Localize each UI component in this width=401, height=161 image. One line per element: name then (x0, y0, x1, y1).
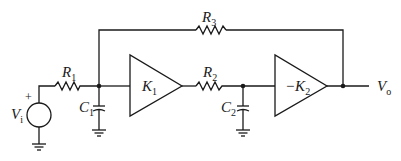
source-circle-icon (27, 103, 51, 127)
vi-label: Vi (11, 106, 23, 125)
capacitor-c1 (92, 86, 106, 136)
resistor-r1 (55, 82, 99, 90)
resistor-r2 (196, 82, 275, 90)
r2-label: R2 (202, 64, 217, 83)
c1-label: C1 (79, 99, 94, 118)
ground-icon-source (32, 144, 46, 150)
capacitor-c2 (236, 86, 250, 136)
r3-label: R3 (201, 9, 216, 28)
k1-label: K1 (141, 78, 157, 97)
r1-label: R1 (61, 64, 76, 83)
source-plus-sign: + (25, 90, 32, 104)
junction-node-output (341, 84, 346, 89)
circuit-diagram: R3 + Vi R1 C1 K1 R2 (0, 0, 401, 161)
vo-label: Vo (377, 78, 391, 97)
k2-label: −K2 (285, 78, 310, 97)
c2-label: C2 (221, 99, 236, 118)
ground-icon-c2 (236, 130, 250, 136)
feedback-path (99, 26, 343, 86)
ground-icon-c1 (92, 130, 106, 136)
